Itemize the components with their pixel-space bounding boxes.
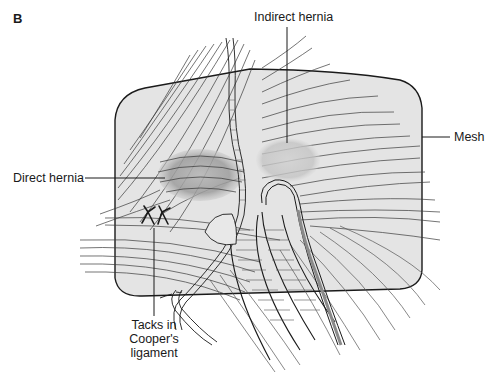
indirect-hernia-defect	[256, 138, 320, 182]
mesh-label: Mesh	[454, 130, 485, 144]
panel-label: B	[13, 12, 22, 26]
direct-hernia-label: Direct hernia	[13, 171, 84, 185]
direct-hernia-defect	[158, 149, 242, 201]
tacks-label-line1: Tacks in	[124, 318, 184, 332]
hernia-mesh-figure: B Indirect hernia Mesh Direct hernia Tac…	[0, 0, 496, 374]
tacks-label-line2: Cooper's	[124, 332, 184, 346]
tacks-label: Tacks in Cooper's ligament	[124, 318, 184, 360]
indirect-hernia-label: Indirect hernia	[254, 10, 333, 24]
tacks-label-line3: ligament	[124, 346, 184, 360]
anatomy-illustration	[0, 0, 496, 374]
